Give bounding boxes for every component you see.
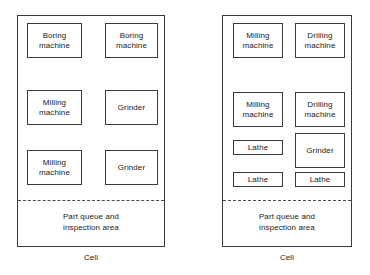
machine-label-line2: machine [39, 168, 70, 177]
machine-box-milling-machine-4: Milling machine [233, 92, 283, 127]
cell-left: Boring machine Boring machine Milling ma… [0, 0, 185, 275]
machine-box-boring-machine-1: Boring machine [27, 23, 82, 58]
machine-label-line2: machine [243, 110, 274, 119]
machine-label-line1: Grinder [118, 163, 145, 172]
machine-box-drilling-machine-1: Drilling machine [295, 23, 345, 58]
queue-label-line2: inspection area [17, 223, 165, 234]
machine-box-milling-machine-2: Milling machine [27, 150, 82, 185]
machine-label-line1: Drilling [305, 31, 336, 40]
machine-box-lathe-1: Lathe [233, 140, 283, 155]
machine-box-milling-machine-1: Milling machine [27, 90, 82, 125]
machine-label-line2: machine [39, 41, 70, 50]
cell-left-queue-label: Part queue and inspection area [17, 212, 165, 234]
machine-box-drilling-machine-2: Drilling machine [295, 92, 345, 127]
machine-label-line1: Grinder [306, 146, 333, 155]
machine-label-line1: Boring [116, 31, 147, 40]
machine-label-line1: Lathe [248, 143, 269, 152]
machine-label-line2: machine [305, 41, 336, 50]
machine-label-line1: Grinder [118, 103, 145, 112]
machine-label-line1: Milling [243, 100, 274, 109]
machine-label-line1: Milling [39, 98, 70, 107]
machine-box-lathe-3: Lathe [295, 172, 345, 187]
machine-label-line2: machine [243, 41, 274, 50]
machine-label-line1: Milling [39, 158, 70, 167]
machine-box-grinder-2: Grinder [105, 150, 158, 185]
cell-right: Milling machine Drilling machine Milling… [185, 0, 370, 275]
machine-box-grinder-3: Grinder [295, 133, 345, 168]
machine-label-line1: Lathe [310, 175, 331, 184]
machine-box-lathe-2: Lathe [233, 172, 283, 187]
machine-label-line2: machine [305, 110, 336, 119]
machine-label-line1: Lathe [248, 175, 269, 184]
machine-label-line2: machine [116, 41, 147, 50]
machine-box-grinder-1: Grinder [105, 90, 158, 125]
queue-label-line1: Part queue and [222, 212, 352, 223]
cell-right-queue-divider [223, 200, 351, 201]
machine-label-line1: Milling [243, 31, 274, 40]
queue-label-line2: inspection area [222, 223, 352, 234]
machine-label-line1: Drilling [305, 100, 336, 109]
cell-left-caption: Cell [17, 253, 165, 262]
machine-box-milling-machine-3: Milling machine [233, 23, 283, 58]
machine-label-line1: Boring [39, 31, 70, 40]
cell-left-queue-divider [18, 200, 164, 201]
queue-label-line1: Part queue and [17, 212, 165, 223]
cell-layout-diagram: Boring machine Boring machine Milling ma… [0, 0, 370, 275]
machine-label-line2: machine [39, 108, 70, 117]
cell-right-queue-label: Part queue and inspection area [222, 212, 352, 234]
machine-box-boring-machine-2: Boring machine [105, 23, 158, 58]
cell-right-caption: Cell [222, 253, 352, 262]
